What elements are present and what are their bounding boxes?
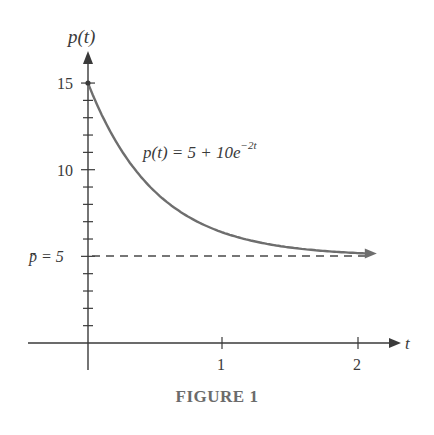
y-axis-label: p(t) [66, 26, 95, 48]
figure: p(t) t 15 10 p̄ = 5 1 2 p(t) = 5 + 10e−2… [0, 0, 434, 435]
curve-arrow-icon [365, 248, 377, 258]
y-axis-arrow-icon [83, 51, 93, 64]
initial-point [85, 80, 90, 85]
y-tick-label-10: 10 [57, 162, 73, 179]
figure-caption: FIGURE 1 [0, 387, 434, 407]
y-tick-label-15: 15 [57, 75, 73, 92]
plot-area: p(t) t 15 10 p̄ = 5 1 2 p(t) = 5 + 10e−2… [0, 0, 434, 380]
y-tick-label-5: p̄ = 5 [28, 248, 64, 266]
x-axis-label: t [405, 334, 411, 353]
x-tick-label-2: 2 [353, 356, 361, 373]
curve-formula-label: p(t) = 5 + 10e−2t [142, 139, 257, 162]
decay-curve [88, 83, 367, 253]
x-tick-label-1: 1 [217, 356, 225, 373]
x-axis-arrow-icon [389, 338, 401, 348]
